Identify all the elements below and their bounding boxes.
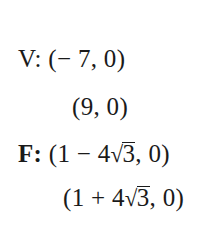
- vertex-1-x: − 7: [57, 45, 91, 72]
- open-paren: (: [48, 45, 57, 72]
- focus-point-2: (1 + 4√3, 0): [63, 184, 184, 211]
- vertex-1-y: 0: [104, 45, 117, 72]
- comma: ,: [135, 140, 148, 167]
- square-root: √3: [111, 140, 136, 169]
- focus-line-2: (1 + 4√3, 0): [63, 184, 184, 213]
- close-paren: ): [119, 93, 128, 120]
- focus-1-y: 0: [148, 140, 161, 167]
- radicand: 3: [122, 142, 135, 165]
- vertex-2-x: 9: [81, 93, 94, 120]
- focus-2-coefficient: 4: [112, 184, 125, 211]
- vertex-line-2: (9, 0): [72, 93, 128, 121]
- vertex-2-y: 0: [107, 93, 120, 120]
- radicand: 3: [137, 186, 150, 209]
- focus-point-1: (1 − 4√3, 0): [49, 140, 170, 167]
- close-paren: ): [117, 45, 126, 72]
- close-paren: ): [175, 184, 184, 211]
- vertex-point-1: (− 7, 0): [48, 45, 125, 72]
- focus-2-y: 0: [163, 184, 176, 211]
- foci-label: F:: [18, 140, 42, 167]
- focus-1-constant: 1: [57, 140, 70, 167]
- comma: ,: [91, 45, 104, 72]
- focus-line-1: F: (1 − 4√3, 0): [18, 140, 170, 169]
- minus-operator: −: [70, 140, 98, 167]
- plus-operator: +: [84, 184, 112, 211]
- vertex-point-2: (9, 0): [72, 93, 128, 120]
- vertices-label: V:: [18, 45, 42, 72]
- open-paren: (: [63, 184, 72, 211]
- comma: ,: [150, 184, 163, 211]
- focus-2-constant: 1: [72, 184, 85, 211]
- comma: ,: [93, 93, 106, 120]
- square-root: √3: [125, 184, 150, 213]
- close-paren: ): [161, 140, 170, 167]
- focus-1-coefficient: 4: [98, 140, 111, 167]
- vertex-line-1: V: (− 7, 0): [18, 45, 125, 73]
- open-paren: (: [72, 93, 81, 120]
